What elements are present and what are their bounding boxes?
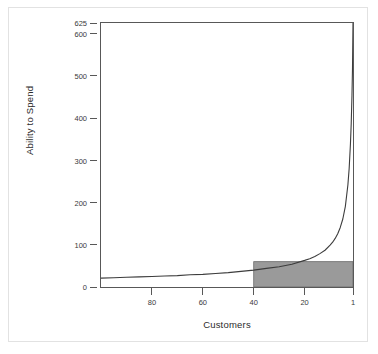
y-axis-tick-mark bbox=[90, 202, 97, 203]
chart-figure: 0100200300400500600625 806040201 Custome… bbox=[0, 0, 378, 354]
x-axis-tick-mark bbox=[253, 288, 254, 295]
y-axis-tick-mark bbox=[90, 244, 97, 245]
plot-canvas bbox=[101, 23, 353, 287]
x-axis-tick-label: 40 bbox=[250, 299, 258, 307]
curve-group bbox=[101, 23, 353, 278]
y-axis-tick-mark bbox=[90, 287, 97, 288]
x-axis-tick-mark bbox=[353, 288, 354, 295]
x-axis-tick-label: 1 bbox=[351, 299, 355, 307]
y-axis-tick-label: 500 bbox=[74, 73, 87, 81]
x-axis-tick-mark bbox=[202, 288, 203, 295]
shaded-region-group bbox=[254, 262, 353, 287]
x-axis-tick-label: 60 bbox=[199, 299, 207, 307]
y-axis-tick-label: 0 bbox=[83, 284, 87, 292]
x-axis-title: Customers bbox=[100, 319, 354, 330]
plot-inner bbox=[101, 23, 353, 287]
x-axis-tick-mark bbox=[304, 288, 305, 295]
y-axis-tick-label: 400 bbox=[74, 115, 87, 123]
shaded-revenue-block bbox=[254, 262, 353, 287]
y-axis-title: Ability to Spend bbox=[24, 86, 35, 155]
y-axis-tick-mark bbox=[90, 75, 97, 76]
y-axis-tick-label: 200 bbox=[74, 199, 87, 207]
y-axis-tick-label: 600 bbox=[74, 30, 87, 38]
y-axis-tick-label: 625 bbox=[74, 20, 87, 28]
y-axis-tick-mark bbox=[90, 118, 97, 119]
y-axis-tick-label: 300 bbox=[74, 157, 87, 165]
y-axis-tick-mark bbox=[90, 23, 97, 24]
ability-to-spend-curve bbox=[101, 23, 353, 278]
y-axis-tick-mark bbox=[90, 160, 97, 161]
x-axis-tick-label: 80 bbox=[148, 299, 156, 307]
y-axis-tick-mark bbox=[90, 33, 97, 34]
x-axis-tick-label: 20 bbox=[300, 299, 308, 307]
x-axis-tick-mark bbox=[151, 288, 152, 295]
plot-area bbox=[100, 22, 354, 288]
y-axis-tick-label: 100 bbox=[74, 242, 87, 250]
